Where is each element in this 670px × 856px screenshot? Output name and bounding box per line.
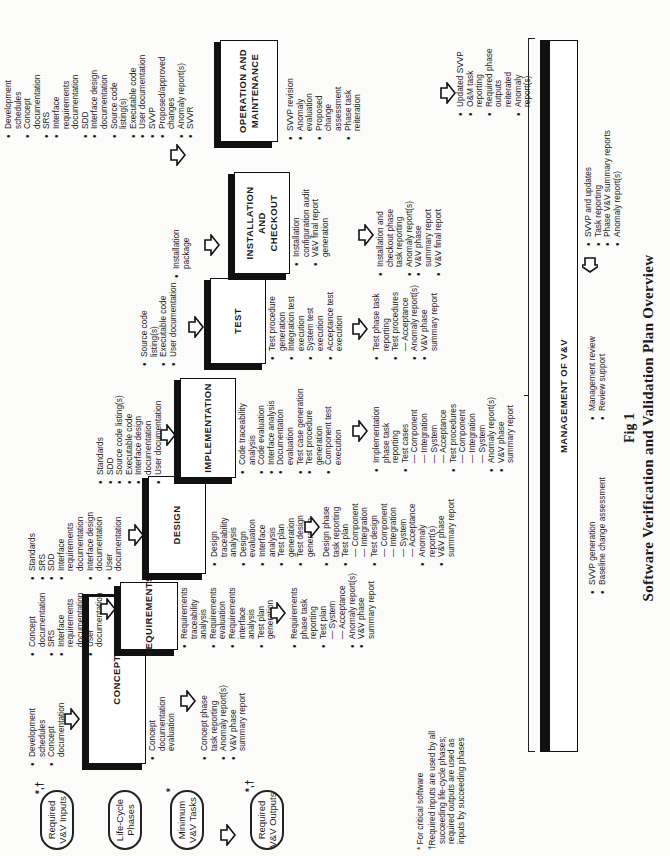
output-item: V&V phase summary report — [497, 388, 516, 472]
footnote-critical-software: * For critical software — [416, 773, 426, 850]
management-bracket-tick — [524, 395, 529, 396]
design-outputs: Design phase task reporting Test plan — … — [322, 494, 456, 566]
input-item: Development schedules — [28, 676, 47, 766]
task-item: Integration test execution — [287, 280, 306, 360]
output-item: Anomaly report(s) — [613, 66, 623, 246]
footnote-line: inputs by succeeding phases — [457, 731, 467, 850]
input-item: Concept documentation — [28, 576, 47, 656]
operation-tasks: SVVP revision Anomaly evaluation Propose… — [286, 70, 363, 140]
block-arrow-down-icon — [352, 420, 368, 442]
legend-minimum-tasks: Minimum V&V Tasks — [170, 790, 204, 850]
legend-mark: *,† — [244, 780, 255, 792]
task-item: Design traceability analysis — [210, 496, 239, 566]
block-arrow-down-icon — [204, 234, 220, 256]
input-item: Interface design documentation — [90, 54, 109, 138]
input-item: Source code listing(s) — [110, 54, 129, 138]
installation-tasks: Installation configuration audit V&V fin… — [292, 186, 330, 266]
task-item: Interface analysis — [258, 496, 277, 566]
concept-tasks: Concept documentation evaluation — [148, 680, 177, 760]
legend-label: V&V Outputs — [267, 793, 278, 848]
output-item: Test phase task reporting — [372, 280, 391, 360]
output-item: Required phase outputs reiterated — [485, 46, 514, 116]
management-tasks-col1: SVVP generation Baseline change assessme… — [588, 434, 607, 594]
legend-label: Life-Cycle — [114, 799, 125, 841]
operation-inputs: Development schedules Concept documentat… — [4, 54, 196, 138]
task-item: Test plan generation — [277, 496, 296, 566]
input-item: Concept documentation — [23, 54, 42, 138]
task-item: Anomaly evaluation — [296, 70, 315, 140]
phase-title: DESIGN — [171, 506, 183, 545]
block-arrow-down-icon — [352, 318, 368, 340]
task-item: Installation configuration audit — [292, 186, 311, 266]
implementation-tasks: Code traceability analysis Code evaluati… — [238, 384, 344, 474]
design-inputs: Standards SRS SDD Interface requirements… — [28, 502, 124, 580]
implementation-outputs: Implementation phase task reporting Test… — [372, 388, 516, 472]
task-item: Component test execution — [324, 384, 343, 474]
block-arrow-up-icon — [582, 254, 598, 276]
block-arrow-down-icon — [270, 602, 286, 624]
phase-title: IMPLEMENTATION — [202, 383, 214, 473]
legend-mark: *,† — [34, 782, 45, 794]
block-arrow-down-icon — [220, 824, 236, 846]
legend-label: Required — [46, 801, 57, 840]
output-item: Design phase task reporting — [322, 494, 341, 566]
task-item: Concept documentation evaluation — [148, 680, 177, 760]
task-item: Requirements evaluation — [209, 578, 228, 648]
output-item: V&V phase summary report — [420, 280, 439, 360]
management-tasks-col2: Management review Review support — [588, 300, 607, 420]
legend-required-inputs: Required V&V Inputs — [40, 790, 74, 850]
legend-label: Minimum — [176, 801, 187, 840]
block-arrow-down-icon — [440, 82, 456, 104]
input-item: Proposed/approved changes — [158, 54, 177, 138]
task-item: Test procedure generation — [305, 384, 324, 474]
block-arrow-down-icon — [188, 316, 204, 338]
task-item: Requirements interface analysis — [228, 578, 257, 648]
task-item: Documentation evaluation — [276, 384, 295, 474]
test-outputs: Test phase task reporting Test procedure… — [372, 280, 439, 360]
output-item: V&V phase summary report — [414, 194, 433, 276]
input-item: Interface design documentation — [134, 388, 153, 484]
concept-outputs: Concept phase task reporting Anomaly rep… — [200, 680, 248, 760]
task-item: Proposed change assessment — [315, 70, 344, 140]
legend-required-outputs: Required V&V Outputs — [250, 790, 284, 850]
task-item: Baseline change assessment — [598, 434, 608, 594]
test-tasks: Test procedure generation Integration te… — [268, 280, 345, 360]
diagram-landscape: Required V&V Inputs *,† Life-Cycle Phase… — [0, 0, 670, 856]
task-item: V&V final report generation — [311, 186, 330, 266]
legend-mark: * — [165, 788, 176, 792]
input-item: Installation package — [172, 214, 191, 278]
input-item: Interface design documentation — [86, 502, 105, 580]
output-item: V&V phase summary report — [229, 680, 248, 760]
input-item: User documentation — [105, 502, 124, 580]
legend-label: V&V Tasks — [187, 797, 198, 843]
output-item: V&V phase summary report — [357, 568, 376, 648]
input-item: Interface requirements documentation — [52, 54, 81, 138]
output-item: Requirements phase task reporting — [290, 568, 319, 648]
requirements-outputs: Requirements phase task reporting Test p… — [290, 568, 376, 648]
legend-life-cycle-phases: Life-Cycle Phases — [108, 790, 142, 850]
requirements-inputs: Concept documentation SRS Interface requ… — [28, 576, 105, 656]
output-item: V&V final report — [434, 194, 444, 276]
operation-outputs: Updated SVVP O&M task reporting Required… — [456, 46, 533, 116]
concept-inputs: Development schedules Concept documentat… — [28, 676, 66, 766]
output-item: Installation and checkout phase task rep… — [376, 194, 405, 276]
input-item: SVVR — [186, 54, 196, 138]
design-tasks: Design traceability analysis Design eval… — [210, 496, 316, 566]
legend-label: Phases — [125, 804, 136, 836]
input-item: Source code listing(s) — [140, 282, 159, 366]
legend-label: V&V Inputs — [57, 796, 68, 844]
input-item: Interface requirements documentation — [57, 576, 86, 656]
task-item: Test procedure generation — [268, 280, 287, 360]
task-item: Design evaluation — [239, 496, 258, 566]
requirements-tasks: Requirements traceability analysis Requi… — [180, 578, 276, 648]
output-item: Anomaly report(s) — [418, 494, 437, 566]
management-title: MANAGEMENT OF V&V — [558, 339, 569, 453]
phase-title: CONCEPT — [111, 655, 123, 704]
test-inputs: Source code listing(s) Executable code U… — [140, 282, 178, 366]
installation-inputs: Installation package — [172, 214, 191, 278]
management-outputs: SVVP and updates Task reporting Phase V&… — [584, 66, 622, 246]
input-item: User documentation — [169, 282, 179, 366]
phase-title: REQUIREMENTS — [143, 575, 155, 656]
output-item: O&M task reporting — [466, 46, 485, 116]
management-bracket — [528, 38, 535, 752]
